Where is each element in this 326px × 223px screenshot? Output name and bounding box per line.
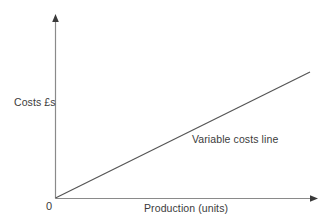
y-axis-label: Costs £s xyxy=(14,97,56,108)
x-axis-label: Production (units) xyxy=(144,203,228,214)
origin-label: 0 xyxy=(46,201,52,212)
variable-costs-line-annotation: Variable costs line xyxy=(192,134,278,145)
chart-canvas xyxy=(0,0,326,223)
y-axis-arrowhead xyxy=(52,14,59,22)
x-axis-arrowhead xyxy=(310,195,318,202)
variable-costs-chart: Costs £s Production (units) 0 Variable c… xyxy=(0,0,326,223)
